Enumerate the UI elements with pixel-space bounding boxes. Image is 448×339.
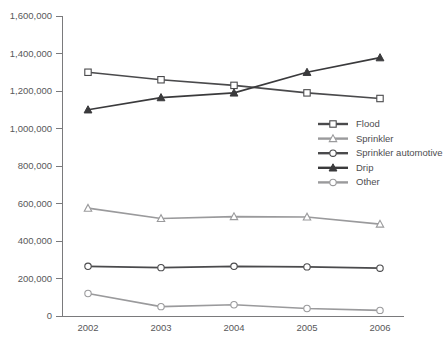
x-axis-tick-label: 2004	[223, 322, 244, 333]
data-point-marker	[158, 77, 164, 83]
data-point-marker	[377, 95, 383, 101]
x-axis-tick-label: 2002	[77, 322, 98, 333]
data-point-marker	[304, 305, 310, 311]
data-point-marker	[330, 121, 336, 127]
data-point-marker	[85, 263, 91, 269]
y-axis-tick-label: 600,000	[18, 198, 52, 209]
chart-canvas: 0200,000400,000600,000800,0001,000,0001,…	[0, 0, 448, 339]
x-axis-ticks: 20022003200420052006	[77, 322, 390, 333]
data-point-marker	[304, 264, 310, 270]
y-axis-tick-label: 1,400,000	[10, 48, 52, 59]
y-axis-tick-label: 1,000,000	[10, 123, 52, 134]
data-point-marker	[85, 290, 91, 296]
chart-legend: FloodSprinklerSprinkler automotiveDripOt…	[318, 118, 443, 187]
y-axis-tick-label: 1,200,000	[10, 85, 52, 96]
legend-item-label: Other	[356, 176, 380, 187]
data-point-marker	[231, 82, 237, 88]
data-point-marker	[304, 90, 310, 96]
legend-item-label: Sprinkler	[356, 133, 394, 144]
series-sprinkler-automotive	[85, 263, 383, 271]
y-axis-tick-label: 800,000	[18, 160, 52, 171]
data-point-marker	[85, 69, 91, 75]
data-point-marker	[377, 307, 383, 313]
data-point-marker	[231, 263, 237, 269]
y-axis-tick-label: 200,000	[18, 273, 52, 284]
data-point-marker	[376, 54, 384, 61]
y-axis-tick-label: 1,600,000	[10, 10, 52, 21]
legend-item-other[interactable]: Other	[318, 176, 380, 187]
legend-item-label: Flood	[356, 118, 380, 129]
data-point-marker	[330, 150, 336, 156]
data-point-marker	[231, 302, 237, 308]
legend-item-label: Sprinkler automotive	[356, 147, 443, 158]
x-axis-tick-label: 2003	[150, 322, 171, 333]
y-axis-tick-label: 0	[47, 310, 52, 321]
x-axis-tick-label: 2005	[296, 322, 317, 333]
line-chart: 0200,000400,000600,000800,0001,000,0001,…	[0, 0, 448, 339]
y-axis-ticks: 0200,000400,000600,000800,0001,000,0001,…	[10, 10, 63, 321]
y-axis-tick-label: 400,000	[18, 235, 52, 246]
series-other	[85, 290, 383, 313]
legend-item-sprinkler-automotive[interactable]: Sprinkler automotive	[318, 147, 443, 158]
series-flood	[85, 69, 383, 102]
legend-item-sprinkler[interactable]: Sprinkler	[318, 133, 394, 144]
data-point-marker	[330, 179, 336, 185]
legend-item-label: Drip	[356, 162, 373, 173]
x-axis-tick-label: 2006	[369, 322, 390, 333]
data-point-marker	[377, 265, 383, 271]
series-sprinkler	[84, 204, 383, 227]
data-point-marker	[158, 264, 164, 270]
legend-item-flood[interactable]: Flood	[318, 118, 380, 129]
data-point-marker	[158, 303, 164, 309]
legend-item-drip[interactable]: Drip	[318, 162, 373, 173]
